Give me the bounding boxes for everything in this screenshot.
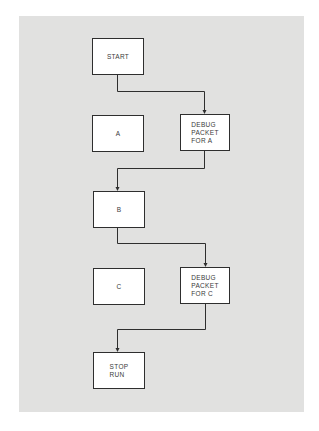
node-a-label: A bbox=[116, 130, 121, 138]
node-c-label: C bbox=[117, 283, 122, 291]
node-b-label: B bbox=[117, 206, 122, 214]
node-b: B bbox=[93, 191, 145, 228]
node-debug-c-label: DEBUG PACKET FOR C bbox=[191, 274, 218, 298]
node-a: A bbox=[92, 115, 144, 152]
node-stop-run-label: STOP RUN bbox=[110, 363, 129, 379]
node-c: C bbox=[93, 268, 145, 305]
diagram-panel bbox=[19, 16, 304, 412]
node-start-label: START bbox=[107, 53, 129, 61]
node-start: START bbox=[92, 38, 144, 75]
node-debug-c: DEBUG PACKET FOR C bbox=[180, 267, 230, 304]
node-stop-run: STOP RUN bbox=[93, 352, 145, 389]
node-debug-a: DEBUG PACKET FOR A bbox=[180, 114, 230, 151]
node-debug-a-label: DEBUG PACKET FOR A bbox=[191, 121, 218, 145]
